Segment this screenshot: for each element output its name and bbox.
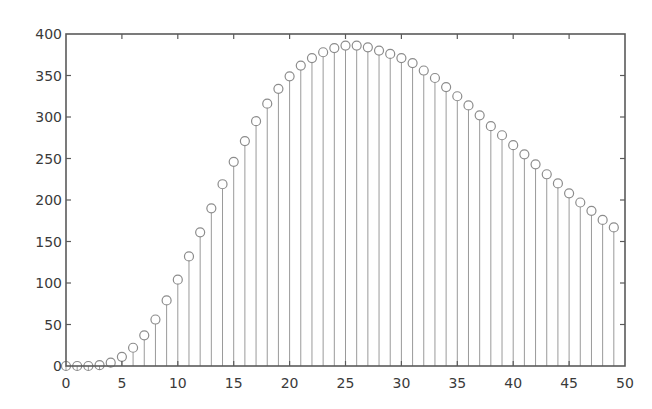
data-point-marker xyxy=(129,343,138,352)
data-point-marker xyxy=(307,54,316,63)
data-point-marker xyxy=(263,99,272,108)
data-point-marker xyxy=(565,189,574,198)
y-tick-label: 100 xyxy=(35,275,62,291)
data-point-marker xyxy=(162,296,171,305)
x-tick-label: 25 xyxy=(337,375,355,391)
data-point-marker xyxy=(430,73,439,82)
y-tick-label: 350 xyxy=(35,68,62,84)
x-tick-label: 35 xyxy=(448,375,466,391)
data-point-marker xyxy=(151,315,160,324)
data-point-marker xyxy=(419,66,428,75)
data-point-marker xyxy=(464,101,473,110)
data-point-marker xyxy=(587,206,596,215)
data-markers xyxy=(62,41,619,370)
data-point-marker xyxy=(609,223,618,232)
data-point-marker xyxy=(363,43,372,52)
data-point-marker xyxy=(330,44,339,53)
y-tick-label: 300 xyxy=(35,109,62,125)
data-point-marker xyxy=(520,150,529,159)
y-tick-label: 0 xyxy=(53,358,62,374)
data-point-marker xyxy=(442,83,451,92)
data-point-marker xyxy=(375,46,384,55)
data-point-marker xyxy=(184,252,193,261)
y-tick-label: 50 xyxy=(44,317,62,333)
data-point-marker xyxy=(140,331,149,340)
data-point-marker xyxy=(397,54,406,63)
x-tick-label: 15 xyxy=(225,375,243,391)
data-point-marker xyxy=(352,41,361,50)
data-point-marker xyxy=(531,160,540,169)
data-point-marker xyxy=(408,59,417,68)
x-tick-label: 40 xyxy=(504,375,522,391)
y-tick-label: 200 xyxy=(35,192,62,208)
data-point-marker xyxy=(386,49,395,58)
data-point-marker xyxy=(598,215,607,224)
data-point-marker xyxy=(196,228,205,237)
stem-chart: 05101520253035404550 0501001502002503003… xyxy=(0,0,652,409)
data-point-marker xyxy=(296,61,305,70)
data-point-marker xyxy=(475,111,484,120)
y-axis-tick-labels: 050100150200250300350400 xyxy=(35,26,62,374)
x-tick-label: 0 xyxy=(62,375,71,391)
data-point-marker xyxy=(486,122,495,131)
x-tick-label: 10 xyxy=(169,375,187,391)
data-point-marker xyxy=(341,41,350,50)
data-point-marker xyxy=(542,170,551,179)
x-axis-tick-labels: 05101520253035404550 xyxy=(62,375,634,391)
stem-lines xyxy=(66,50,614,370)
data-point-marker xyxy=(207,204,216,213)
y-tick-label: 250 xyxy=(35,151,62,167)
x-tick-label: 45 xyxy=(560,375,578,391)
y-tick-label: 400 xyxy=(35,26,62,42)
data-point-marker xyxy=(117,352,126,361)
y-tick-label: 150 xyxy=(35,234,62,250)
data-point-marker xyxy=(274,84,283,93)
x-tick-label: 5 xyxy=(117,375,126,391)
data-point-marker xyxy=(319,48,328,57)
data-point-marker xyxy=(252,117,261,126)
data-point-marker xyxy=(553,179,562,188)
data-point-marker xyxy=(218,180,227,189)
data-point-marker xyxy=(240,137,249,146)
data-point-marker xyxy=(453,92,462,101)
data-point-marker xyxy=(173,275,182,284)
data-point-marker xyxy=(229,157,238,166)
data-point-marker xyxy=(509,141,518,150)
x-tick-label: 50 xyxy=(616,375,634,391)
data-point-marker xyxy=(285,72,294,81)
x-tick-label: 20 xyxy=(281,375,299,391)
x-tick-label: 30 xyxy=(392,375,410,391)
data-point-marker xyxy=(576,198,585,207)
data-point-marker xyxy=(498,131,507,140)
